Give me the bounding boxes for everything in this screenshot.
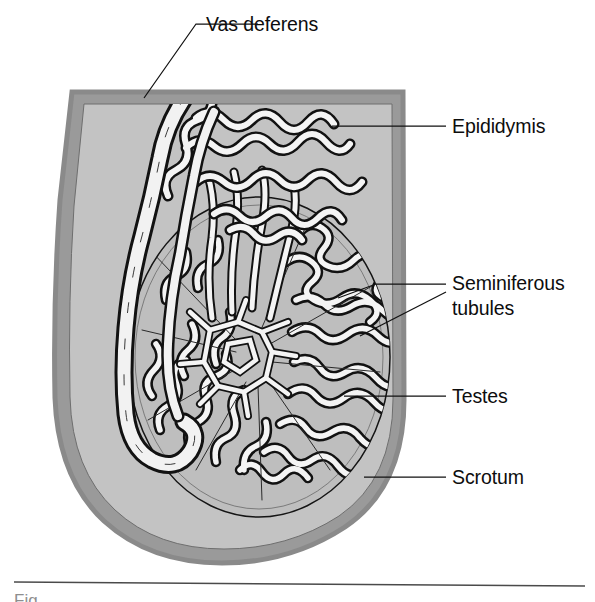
label-seminiferous-tubules-line1: Seminiferous [452, 272, 565, 294]
label-epididymis: Epididymis [452, 115, 546, 137]
label-vas-deferens: Vas deferens [206, 13, 319, 35]
label-testes: Testes [452, 385, 508, 407]
anatomical-diagram: Vas deferens Epididymis Seminiferous tub… [0, 0, 595, 602]
caption-fragment: Fig [14, 592, 134, 602]
figure-divider-rule [14, 582, 585, 586]
label-scrotum: Scrotum [452, 466, 524, 488]
label-seminiferous-tubules-line2: tubules [452, 297, 515, 319]
leader-vas-deferens [144, 24, 258, 98]
